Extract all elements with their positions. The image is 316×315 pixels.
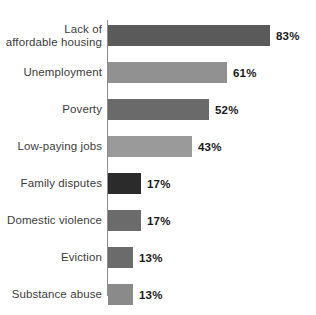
bar-row: Domestic violence17%: [0, 210, 316, 231]
category-label: Unemployment: [23, 66, 102, 80]
category-label: Eviction: [61, 251, 102, 265]
bar-chart: Lack of affordable housing83%Unemploymen…: [0, 0, 316, 315]
bar-value-label: 83%: [276, 30, 300, 42]
bar: [108, 25, 270, 46]
bar-row: Family disputes17%: [0, 173, 316, 194]
bar-value-label: 17%: [147, 215, 171, 227]
bar-row: Eviction13%: [0, 247, 316, 268]
category-label: Domestic violence: [7, 214, 102, 228]
bar-row: Unemployment61%: [0, 62, 316, 83]
category-label: Substance abuse: [12, 288, 102, 302]
bar-row: Poverty52%: [0, 99, 316, 120]
bar-row: Low-paying jobs43%: [0, 136, 316, 157]
bar-value-label: 13%: [139, 289, 163, 301]
bar: [108, 284, 133, 305]
bar-row: Lack of affordable housing83%: [0, 25, 316, 46]
plot-area: Lack of affordable housing83%Unemploymen…: [0, 0, 316, 315]
bar: [108, 210, 141, 231]
bar: [108, 62, 227, 83]
bar-value-label: 61%: [233, 67, 257, 79]
category-label: Family disputes: [21, 177, 102, 191]
bar-row: Substance abuse13%: [0, 284, 316, 305]
bar: [108, 136, 192, 157]
category-label: Low-paying jobs: [17, 140, 102, 154]
category-label: Lack of affordable housing: [6, 22, 102, 49]
bar-value-label: 43%: [198, 141, 222, 153]
bar: [108, 99, 209, 120]
bar: [108, 247, 133, 268]
bar-value-label: 52%: [215, 104, 239, 116]
category-label: Poverty: [62, 103, 102, 117]
bar: [108, 173, 141, 194]
bar-value-label: 17%: [147, 178, 171, 190]
bar-value-label: 13%: [139, 252, 163, 264]
